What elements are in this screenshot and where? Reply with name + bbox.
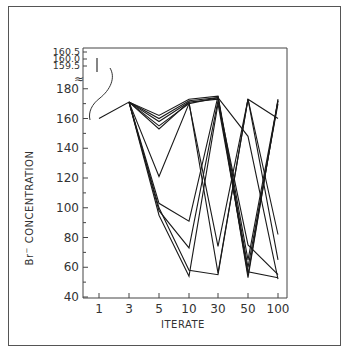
x-axis: 135103050100 (95, 293, 289, 316)
x-tick-label: 10 (181, 302, 196, 316)
y-tick-label: 160 (56, 112, 79, 126)
series-lines (99, 96, 278, 279)
y-axis-title-main: Br (24, 253, 35, 265)
y-tick-label: 60 (64, 260, 79, 274)
x-tick-label: 50 (240, 302, 255, 316)
y-tick-label: 80 (64, 231, 79, 245)
svg-text:Br− CONCENTRATION: Br− CONCENTRATION (23, 151, 35, 266)
x-tick-label: 30 (210, 302, 225, 316)
x-tick-label: 5 (155, 302, 163, 316)
x-tick-label: 3 (125, 302, 133, 316)
y-tick-label: 140 (56, 141, 79, 155)
axis-break-icon: ≈ (74, 72, 84, 86)
series-line (129, 102, 278, 278)
y-tick-label: 100 (56, 201, 79, 215)
y-axis-title-rest: CONCENTRATION (24, 151, 35, 247)
plot-frame (83, 48, 287, 298)
y-axis-title: Br− CONCENTRATION (23, 151, 35, 266)
y-tick-label: 120 (56, 171, 79, 185)
y-break-tick-label: 159.5 (53, 60, 80, 71)
x-tick-label: 100 (267, 302, 290, 316)
inset-annotation (89, 58, 112, 120)
x-axis-title: ITERATE (161, 319, 205, 330)
line-chart: 406080100120140160180160.5160.0159.5≈ 13… (0, 0, 350, 358)
x-tick-label: 1 (95, 302, 103, 316)
y-tick-label: 40 (64, 290, 79, 304)
